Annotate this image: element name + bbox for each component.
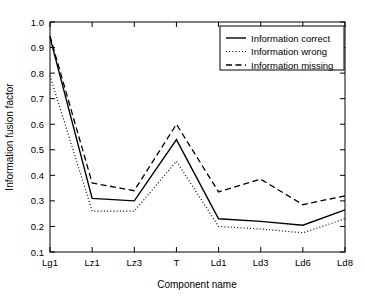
y-axis-title: Information fusion factor <box>4 83 15 191</box>
y-tick-label: 0.6 <box>31 119 44 130</box>
x-tick-label: Ld1 <box>211 257 227 268</box>
y-tick-label: 0.9 <box>31 42 44 53</box>
y-tick-label: 0.3 <box>31 195 44 206</box>
legend-label: Information missing <box>251 60 333 71</box>
y-tick-label: 0.8 <box>31 68 44 79</box>
x-tick-label: Lg1 <box>42 257 58 268</box>
legend-label: Information wrong <box>251 46 327 57</box>
x-tick-label: Lz1 <box>84 257 99 268</box>
x-tick-label: T <box>174 257 180 268</box>
x-tick-label: Ld3 <box>253 257 269 268</box>
y-tick-label: 0.4 <box>31 170 44 181</box>
series-path-dotted <box>50 76 345 233</box>
legend: Information correctInformation wrongInfo… <box>220 26 344 71</box>
y-tick-label: 0.7 <box>31 93 44 104</box>
legend-label: Information correct <box>251 33 331 44</box>
y-tick-label: 1.0 <box>31 17 44 28</box>
y-tick-label: 0.2 <box>31 221 44 232</box>
x-axis-title: Component name <box>157 279 237 290</box>
y-tick-label: 0.1 <box>31 247 44 258</box>
x-tick-label: Ld8 <box>337 257 353 268</box>
x-tick-label: Ld6 <box>295 257 311 268</box>
y-tick-label: 0.5 <box>31 144 44 155</box>
x-tick-label: Lz3 <box>127 257 142 268</box>
line-chart-figure: 0.10.20.30.40.50.60.70.80.91.0 Lg1Lz1Lz3… <box>0 0 365 302</box>
